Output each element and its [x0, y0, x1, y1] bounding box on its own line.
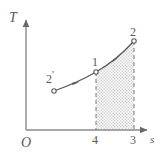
state-point-2prime-marker — [52, 89, 56, 93]
state-point-2-marker — [132, 39, 136, 43]
x-axis-label: s — [150, 134, 154, 145]
state-point-label-1: 1 — [92, 56, 98, 68]
y-axis-label: T — [9, 11, 17, 25]
origin-label: O — [21, 136, 31, 150]
state-point-label-2prime: 2' — [46, 69, 54, 85]
x-tick-label-3: 3 — [130, 134, 136, 146]
curve-direction-arrow-1 — [72, 82, 80, 85]
x-tick-label-4: 4 — [92, 134, 98, 146]
ts-diagram-figure: T s O 4 3 2' 1 2 — [0, 0, 164, 161]
state-point-label-2prime-mark: ' — [52, 68, 54, 80]
shaded-area-under-curve — [96, 41, 134, 130]
state-point-label-2: 2 — [130, 26, 136, 38]
state-point-1-marker — [94, 70, 98, 74]
